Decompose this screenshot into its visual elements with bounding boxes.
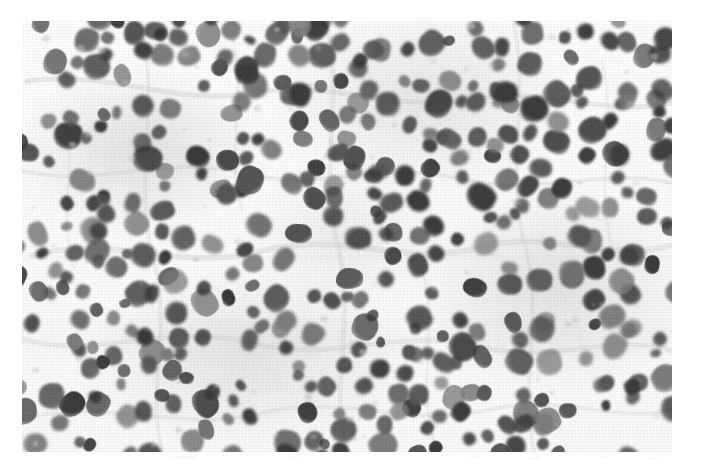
- page-canvas: [0, 0, 701, 465]
- photomicrograph-plate: [22, 21, 672, 452]
- halftone-grain-overlay: [22, 21, 672, 452]
- figure-caption: [0, 453, 701, 465]
